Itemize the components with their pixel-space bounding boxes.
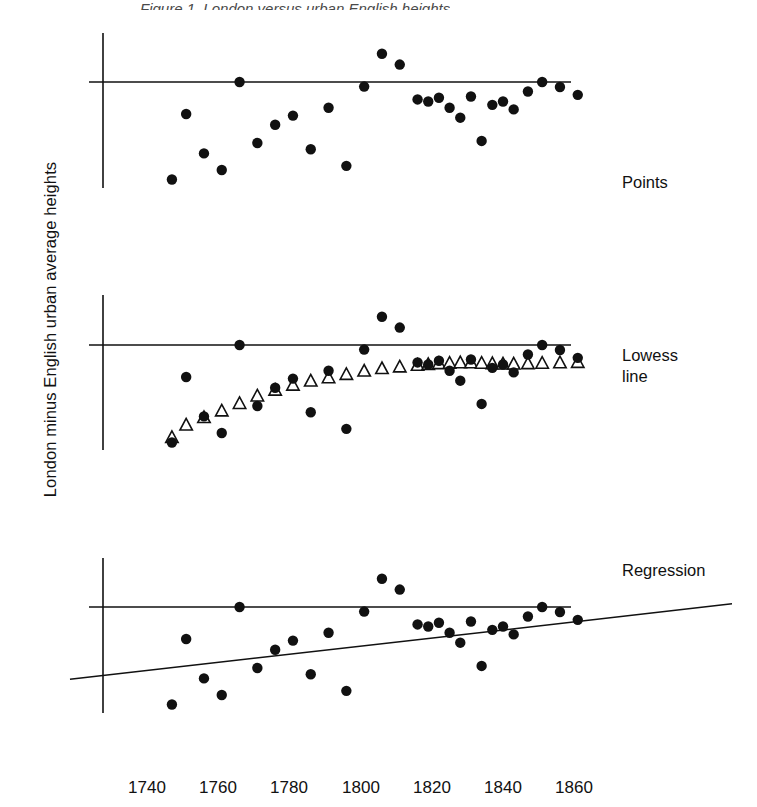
data-point <box>181 109 191 119</box>
data-point <box>476 136 486 146</box>
x-tick-label: 1760 <box>188 778 248 798</box>
data-point <box>199 673 209 683</box>
data-point <box>523 349 533 359</box>
x-tick-label: 1860 <box>544 778 604 798</box>
data-point <box>395 584 405 594</box>
data-point <box>444 366 454 376</box>
x-tick-label: 1840 <box>473 778 533 798</box>
data-point <box>555 345 565 355</box>
data-point <box>434 93 444 103</box>
panel-1 <box>89 295 584 450</box>
data-point <box>288 635 298 645</box>
data-point <box>466 616 476 626</box>
data-point <box>288 373 298 383</box>
data-point <box>444 628 454 638</box>
data-point <box>455 375 465 385</box>
data-point <box>341 686 351 696</box>
x-tick-label: 1780 <box>259 778 319 798</box>
data-point <box>323 366 333 376</box>
data-point <box>359 344 369 354</box>
lowess-marker <box>180 418 192 430</box>
lowess-marker <box>454 356 466 368</box>
data-point <box>270 120 280 130</box>
data-point <box>466 91 476 101</box>
lowess-marker <box>251 389 263 401</box>
data-point <box>217 690 227 700</box>
data-point <box>395 322 405 332</box>
x-tick-label: 1800 <box>331 778 391 798</box>
data-point <box>537 602 547 612</box>
data-point <box>234 77 244 87</box>
data-point <box>537 340 547 350</box>
data-point <box>476 399 486 409</box>
data-point <box>341 424 351 434</box>
lowess-marker <box>475 357 487 369</box>
data-point <box>434 356 444 366</box>
data-point <box>487 625 497 635</box>
plot-canvas <box>0 0 757 807</box>
figure-london-vs-urban-heights: Figure 1. London versus urban English he… <box>0 0 757 807</box>
data-point <box>359 81 369 91</box>
x-tick-label: 1820 <box>402 778 462 798</box>
data-point <box>199 148 209 158</box>
data-point <box>306 407 316 417</box>
data-point <box>455 112 465 122</box>
data-point <box>434 618 444 628</box>
lowess-marker <box>554 356 566 368</box>
data-point <box>217 428 227 438</box>
data-point <box>341 161 351 171</box>
data-point <box>555 82 565 92</box>
data-point <box>555 607 565 617</box>
lowess-marker <box>394 360 406 372</box>
data-point <box>199 411 209 421</box>
data-point <box>167 437 177 447</box>
data-point <box>167 699 177 709</box>
x-tick-label: 1740 <box>117 778 177 798</box>
data-point <box>252 401 262 411</box>
data-point <box>466 354 476 364</box>
data-point <box>323 103 333 113</box>
data-point <box>270 645 280 655</box>
data-point <box>270 383 280 393</box>
lowess-marker <box>305 374 317 386</box>
data-point <box>181 634 191 644</box>
data-point <box>455 637 465 647</box>
data-point <box>306 144 316 154</box>
lowess-marker <box>233 397 245 409</box>
regression-line <box>70 604 732 679</box>
data-point <box>508 367 518 377</box>
data-point <box>217 165 227 175</box>
lowess-marker <box>376 362 388 374</box>
data-point <box>423 96 433 106</box>
data-point <box>498 359 508 369</box>
panel-2 <box>70 558 732 713</box>
lowess-marker <box>358 365 370 377</box>
data-point <box>252 138 262 148</box>
data-point <box>444 103 454 113</box>
data-point <box>573 353 583 363</box>
data-point <box>377 312 387 322</box>
data-point <box>377 574 387 584</box>
data-point <box>423 359 433 369</box>
lowess-marker <box>216 404 228 416</box>
data-point <box>476 661 486 671</box>
lowess-marker <box>536 357 548 369</box>
data-point <box>487 363 497 373</box>
data-point <box>377 49 387 59</box>
data-point <box>487 100 497 110</box>
data-point <box>412 619 422 629</box>
data-point <box>412 94 422 104</box>
data-point <box>423 621 433 631</box>
lowess-marker <box>340 368 352 380</box>
data-point <box>508 629 518 639</box>
data-point <box>523 86 533 96</box>
data-point <box>306 669 316 679</box>
data-point <box>412 357 422 367</box>
data-point <box>234 602 244 612</box>
data-point <box>537 77 547 87</box>
data-point <box>573 90 583 100</box>
data-point <box>508 104 518 114</box>
data-point <box>252 663 262 673</box>
data-point <box>395 59 405 69</box>
data-point <box>573 615 583 625</box>
